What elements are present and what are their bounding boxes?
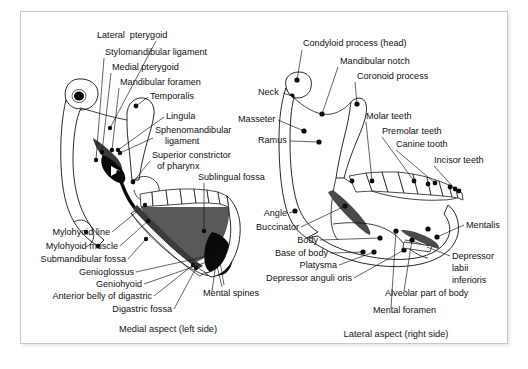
leader-digastric-fossa [174, 268, 196, 309]
premolar-teeth-dot-2 [426, 182, 431, 187]
mandible-diagram: Lateral pterygoidStylomandibular ligamen… [0, 0, 528, 369]
label-temporalis: Temporalis [150, 91, 194, 101]
label-depressor-anguli-oris: Depressor anguli oris [266, 273, 352, 283]
label-base-of-body: Base of body [275, 248, 329, 258]
label-mental-foramen: Mental foramen [373, 305, 436, 315]
label-lateral-pterygoid: Lateral pterygoid [97, 30, 167, 40]
leader-ramus [290, 141, 319, 142]
label-coronoid-process: Coronoid process [357, 71, 429, 81]
label-mandibular-notch: Mandibular notch [340, 56, 410, 66]
label-canine-tooth: Canine tooth [396, 139, 448, 149]
label-molar-teeth: Molar teeth [366, 111, 412, 121]
label-ramus: Ramus [258, 135, 287, 145]
leader-medial-pterygoid [102, 73, 111, 152]
figure-root: Lateral pterygoidStylomandibular ligamen… [0, 0, 528, 369]
label-geniohyoid: Geniohyoid [96, 279, 142, 289]
leader-molar-teeth [366, 122, 372, 181]
label-mylohyoid-line: Mylohyoid line [52, 227, 110, 237]
captions-layer: Medial aspect (left side)Lateral aspect … [119, 324, 449, 339]
label-sphenomandibular-ligament-1: Sphenomandibular [155, 125, 231, 135]
label-alveolar-part-of-body: Alveolar part of body [385, 288, 469, 298]
leader-mylohyoid-muscle [120, 221, 148, 246]
leader-anterior-belly-of-digastric [154, 265, 193, 296]
label-buccinator: Buccinator [256, 222, 299, 232]
label-anterior-belly-of-digastric: Anterior belly of digastric [52, 291, 152, 301]
leader-mandibular-foramen [112, 88, 119, 150]
leader-buccinator [301, 206, 345, 227]
label-body: Body [297, 235, 318, 245]
label-superior-constrictor-1: Superior constrictor [152, 150, 231, 160]
label-platysma: Platysma [300, 260, 338, 270]
mandibular-notch-medial [81, 108, 127, 120]
label-mandibular-foramen: Mandibular foramen [120, 77, 201, 87]
ramus-medial [61, 100, 104, 246]
lateral-tooth-row [349, 172, 463, 200]
label-angle: Angle [264, 208, 287, 218]
label-submandibular-fossa: Submandibular fossa [41, 254, 127, 264]
label-incisor-teeth: Incisor teeth [434, 155, 484, 165]
incisor-teeth-dot-3 [457, 189, 462, 194]
caption-lateral-right: Lateral aspect (right side) [344, 329, 449, 339]
molar-teeth-dot-2 [350, 179, 355, 184]
mentalis-dot-2 [425, 226, 430, 231]
label-depressor-labii-inferioris-2: labii [452, 263, 468, 273]
masseter-band [328, 190, 370, 235]
caption-medial-left: Medial aspect (left side) [119, 324, 217, 334]
label-sublingual-fossa: Sublingual fossa [198, 172, 266, 182]
leader-submandibular-fossa [128, 239, 146, 259]
label-mentalis: Mentalis [466, 220, 500, 230]
label-mental-spines: Mental spines [203, 288, 260, 298]
ramus-anterior-border [331, 178, 338, 240]
medial-tooth-row [140, 189, 229, 207]
label-depressor-labii-inferioris-3: inferioris [452, 275, 487, 285]
label-digastric-fossa: Digastric fossa [112, 304, 173, 314]
label-masseter: Masseter [238, 114, 275, 124]
leader-body [320, 238, 380, 240]
label-lingula: Lingula [166, 111, 196, 121]
label-mylohyoid-muscle: Mylohyoid muscle [46, 241, 118, 251]
coronoid-lateral [336, 98, 367, 178]
label-stylomandibular-ligament: Stylomandibular ligament [105, 47, 208, 57]
leader-mandibular-notch [322, 67, 338, 114]
label-medial-pterygoid: Medial pterygoid [112, 62, 179, 72]
label-depressor-labii-inferioris-1: Depressor [452, 251, 494, 261]
label-premolar-teeth: Premolar teeth [382, 126, 442, 136]
label-neck: Neck [258, 87, 279, 97]
label-genioglossus: Genioglossus [79, 267, 135, 277]
condyle-marking [74, 92, 84, 101]
coronoid-medial [127, 98, 154, 180]
label-sphenomandibular-ligament-2: ligament [165, 136, 200, 146]
label-superior-constrictor-2: of pharynx [157, 161, 200, 171]
label-condyloid-process-head: Condyloid process (head) [303, 38, 407, 48]
